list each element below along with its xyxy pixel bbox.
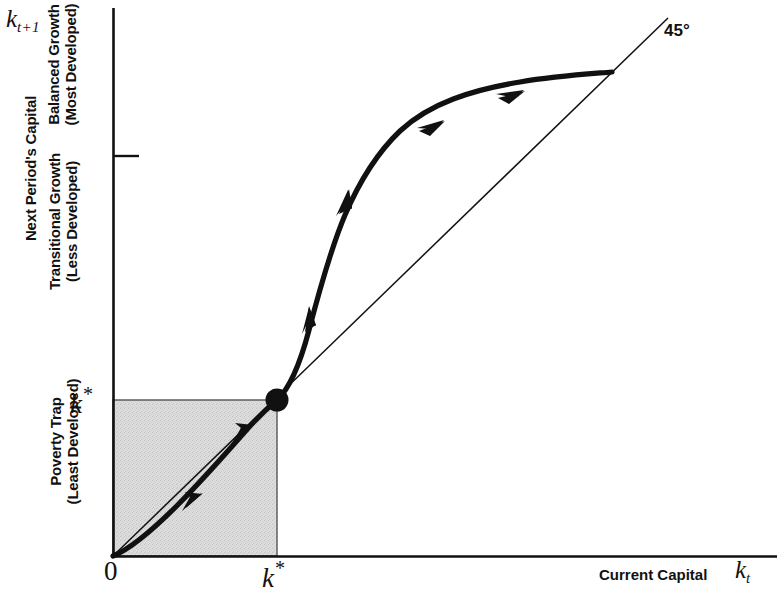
forty-five-degree-label: 45° [664,22,690,39]
x-axis-variable-label: kt [735,557,751,586]
region-balanced-growth-line2: (Most Developed) [61,4,78,126]
arrow-growth-3 [417,120,445,136]
plot-canvas [0,0,777,595]
y-axis-kstar-label: k* [70,384,93,418]
region-transitional-growth-line2: (Less Developed) [62,161,79,282]
y-axis-variable-label: kt+1 [6,6,40,35]
y-axis-variable: k [6,5,17,32]
x-axis-kstar-label: k* [262,558,285,592]
arrow-growth-4 [496,90,525,104]
y-axis-name-label: Next Period's Capital [23,58,40,278]
y-axis-subscript: t+1 [17,19,40,35]
y-kstar-star: * [83,383,93,405]
x-kstar-star: * [275,557,285,579]
x-axis-name-label: Current Capital [599,567,707,582]
poverty-trap-figure: kt+1 Next Period's Capital Balanced Grow… [0,0,777,595]
region-label-transitional-growth: Transitional Growth (Less Developed) [47,136,80,308]
origin-label: 0 [104,558,118,585]
steady-state-point [266,389,289,412]
x-axis-variable: k [735,556,746,583]
region-label-balanced-growth: Balanced Growth (Most Developed) [46,0,79,140]
region-poverty-trap-line1: Poverty Trap [47,397,64,485]
forty-five-degree-line [113,18,668,556]
y-kstar-variable: k [70,389,82,419]
region-transitional-growth-line1: Transitional Growth [46,153,63,290]
region-balanced-growth-line1: Balanced Growth [45,4,62,124]
x-kstar-variable: k [262,563,274,593]
x-axis-subscript: t [746,570,750,586]
